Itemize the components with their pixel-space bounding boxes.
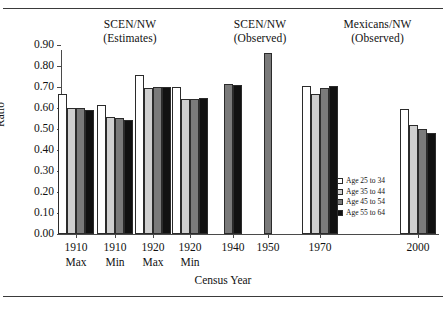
bar bbox=[135, 75, 144, 234]
bar bbox=[302, 86, 311, 234]
x-axis-tick-label-line2: Min bbox=[165, 255, 215, 270]
legend-swatch-icon bbox=[337, 199, 343, 205]
bar bbox=[58, 94, 67, 234]
bar bbox=[144, 88, 153, 234]
bar bbox=[320, 88, 329, 234]
bar bbox=[181, 99, 190, 234]
bar bbox=[190, 99, 199, 234]
x-axis-tick-mark bbox=[153, 234, 154, 238]
legend-swatch-icon bbox=[337, 210, 343, 216]
bar bbox=[264, 53, 273, 234]
legend-item-label: Age 35 to 44 bbox=[346, 187, 385, 198]
bar bbox=[85, 110, 94, 234]
x-axis-tick-label-line1: 1950 bbox=[243, 240, 293, 255]
x-axis-tick-mark bbox=[418, 234, 419, 238]
x-axis-tick-mark bbox=[115, 234, 116, 238]
x-axis-tick-mark bbox=[233, 234, 234, 238]
bar bbox=[311, 94, 320, 234]
legend-item-label: Age 55 to 64 bbox=[346, 208, 385, 219]
x-axis-tick-mark bbox=[76, 234, 77, 238]
bar bbox=[162, 87, 171, 234]
bar bbox=[172, 87, 181, 234]
x-axis-tick-label: 2000 bbox=[393, 240, 443, 255]
x-axis-tick-mark bbox=[320, 234, 321, 238]
legend-item: Age 35 to 44 bbox=[337, 187, 431, 198]
bar bbox=[153, 87, 162, 234]
legend-item-label: Age 25 to 34 bbox=[346, 176, 385, 187]
x-axis-label: Census Year bbox=[0, 274, 446, 286]
bar bbox=[199, 98, 208, 234]
bar bbox=[115, 118, 124, 234]
legend-item: Age 55 to 64 bbox=[337, 208, 431, 219]
x-axis-tick-label: 1950 bbox=[243, 240, 293, 255]
x-axis-tick-mark bbox=[268, 234, 269, 238]
x-axis-tick-mark bbox=[190, 234, 191, 238]
bar bbox=[106, 117, 115, 234]
bar bbox=[224, 84, 233, 234]
bar bbox=[124, 120, 133, 234]
legend-item: Age 25 to 34 bbox=[337, 176, 431, 187]
legend-swatch-icon bbox=[337, 189, 343, 195]
legend-item: Age 45 to 54 bbox=[337, 197, 431, 208]
bar bbox=[97, 105, 106, 234]
x-axis-tick-label-line1: 2000 bbox=[393, 240, 443, 255]
bar bbox=[233, 85, 242, 234]
x-axis-tick-label-line1: 1970 bbox=[295, 240, 345, 255]
x-axis-tick-label: 1970 bbox=[295, 240, 345, 255]
legend-swatch-icon bbox=[337, 178, 343, 184]
chart-legend: Age 25 to 34Age 35 to 44Age 45 to 54Age … bbox=[337, 176, 431, 218]
legend-item-label: Age 45 to 54 bbox=[346, 197, 385, 208]
bar bbox=[67, 108, 76, 234]
bar bbox=[76, 108, 85, 234]
